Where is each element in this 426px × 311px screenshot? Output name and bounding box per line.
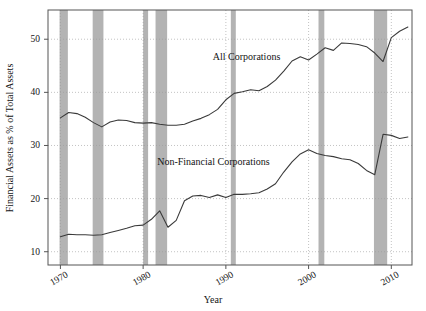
x-axis-title: Year (204, 294, 223, 305)
recession-band (143, 10, 148, 265)
series-annotation-label: All Corporations (213, 51, 281, 62)
chart-canvas: 102030405019701980199020002010 All Corpo… (0, 0, 426, 311)
series-annotation-label: Non-Financial Corporations (157, 156, 270, 167)
recession-band (374, 10, 387, 265)
recession-band (319, 10, 325, 265)
y-tick-label: 40 (31, 87, 41, 97)
recession-band (93, 10, 104, 265)
y-tick-label: 50 (31, 34, 41, 44)
y-tick-label: 10 (31, 247, 41, 257)
y-tick-label: 30 (31, 140, 41, 150)
recession-band (60, 10, 68, 265)
recession-band (231, 10, 236, 265)
chart-figure: 102030405019701980199020002010 All Corpo… (0, 0, 426, 311)
y-axis-title: Financial Assets as % of Total Assets (4, 64, 15, 213)
recession-band (156, 10, 168, 265)
y-tick-label: 20 (31, 194, 41, 204)
